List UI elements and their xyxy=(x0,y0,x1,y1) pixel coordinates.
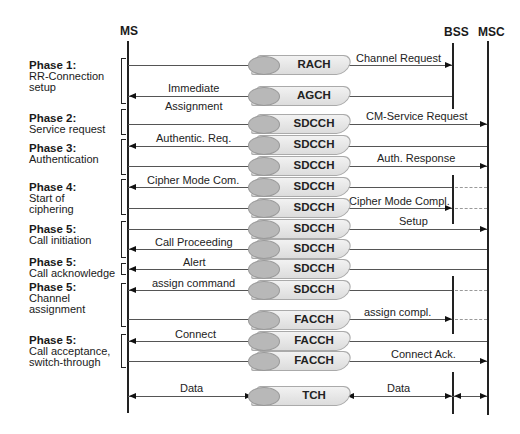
msg-line xyxy=(348,361,487,362)
msg-line xyxy=(128,208,252,209)
msg-line xyxy=(128,269,252,270)
msg-line xyxy=(128,341,252,342)
bss-lifeline-1 xyxy=(452,43,454,109)
msg-line xyxy=(348,146,487,147)
label-alert: Alert xyxy=(183,256,206,268)
label-assign-compl: assign compl. xyxy=(364,306,431,318)
msg-line xyxy=(348,290,452,291)
arrow-right-icon xyxy=(480,121,487,127)
bss-lifeline-2 xyxy=(452,175,454,224)
phase-4: Phase 4:Start ofciphering xyxy=(29,182,76,215)
bss-lifeline-3 xyxy=(452,276,454,334)
entity-ms: MS xyxy=(120,24,138,38)
msg-line xyxy=(348,249,487,250)
bracket-phase-4 xyxy=(121,179,126,215)
msg-line xyxy=(128,166,252,167)
arrow-left-icon xyxy=(454,393,461,399)
channel-sdcch: SDCCH xyxy=(248,198,352,218)
msg-line xyxy=(348,396,487,397)
msc-lifeline xyxy=(487,41,489,415)
arrow-left-icon xyxy=(129,393,136,399)
channel-sdcch: SDCCH xyxy=(248,239,352,259)
phase-5-channel-assignment: Phase 5:Channelassignment xyxy=(29,282,85,315)
label-data-left: Data xyxy=(180,382,203,394)
phase-2: Phase 2:Service request xyxy=(29,113,105,135)
arrow-left-icon xyxy=(129,246,136,252)
channel-tch: TCH xyxy=(248,386,352,406)
msg-line xyxy=(348,187,452,188)
channel-sdcch: SDCCH xyxy=(248,177,352,197)
msg-line xyxy=(348,124,487,125)
bracket-phase-5d xyxy=(121,334,126,368)
dashed-line xyxy=(455,187,487,188)
channel-sdcch: SDCCH xyxy=(248,156,352,176)
msg-line xyxy=(128,124,252,125)
msg-line xyxy=(348,166,487,167)
msg-line xyxy=(128,65,252,66)
label-data-right: Data xyxy=(387,382,410,394)
label-auth-response: Auth. Response xyxy=(377,152,455,164)
label-cipher-mode-compl: Cipher Mode Compl. xyxy=(349,195,450,207)
channel-agch: AGCH xyxy=(248,86,352,106)
msg-line xyxy=(128,396,252,397)
msg-line xyxy=(128,96,252,97)
channel-facch: FACCH xyxy=(248,331,352,351)
arrow-right-icon xyxy=(480,226,487,232)
label-cipher-mode-com: Cipher Mode Com. xyxy=(147,174,239,186)
label-authentic-req: Authentic. Req. xyxy=(156,132,231,144)
channel-sdcch: SDCCH xyxy=(248,219,352,239)
arrow-right-icon xyxy=(480,393,487,399)
entity-msc: MSC xyxy=(478,25,505,39)
msg-line xyxy=(348,229,487,230)
bracket-phase-1 xyxy=(121,58,126,104)
bracket-phase-5a xyxy=(121,221,126,258)
phase-5-call-acknowledge: Phase 5:Call acknowledge xyxy=(29,257,115,279)
arrow-left-icon xyxy=(129,287,136,293)
label-connect-ack: Connect Ack. xyxy=(391,348,456,360)
arrow-right-icon xyxy=(480,163,487,169)
channel-sdcch: SDCCH xyxy=(248,259,352,279)
phase-3: Phase 3:Authentication xyxy=(29,143,99,165)
phase-5-call-acceptance: Phase 5:Call acceptance,switch-through xyxy=(29,335,110,368)
bracket-phase-5b xyxy=(121,263,126,275)
label-immediate: Immediate xyxy=(168,82,219,94)
arrow-right-icon xyxy=(480,358,487,364)
msg-line xyxy=(348,65,452,66)
arrow-right-icon xyxy=(445,316,452,322)
label-connect: Connect xyxy=(175,328,216,340)
dashed-line xyxy=(455,208,487,209)
msg-line xyxy=(128,290,252,291)
channel-sdcch: SDCCH xyxy=(248,280,352,300)
bracket-phase-3 xyxy=(121,139,126,175)
arrow-right-icon xyxy=(445,393,452,399)
arrow-left-icon xyxy=(129,143,136,149)
channel-facch: FACCH xyxy=(248,351,352,371)
arrow-left-icon xyxy=(129,266,136,272)
label-assign-command: assign command xyxy=(152,277,235,289)
channel-sdcch: SDCCH xyxy=(248,114,352,134)
arrow-left-icon xyxy=(129,184,136,190)
bracket-phase-5c xyxy=(121,283,126,327)
msg-line xyxy=(348,208,452,209)
arrow-right-icon xyxy=(445,62,452,68)
channel-sdcch: SDCCH xyxy=(248,135,352,155)
msg-line xyxy=(128,187,252,188)
msg-line xyxy=(348,269,487,270)
phase-1: Phase 1:RR-Connectionsetup xyxy=(29,60,104,93)
msg-line xyxy=(128,319,252,320)
phase-5-call-initiation: Phase 5:Call initiation xyxy=(29,224,91,246)
label-assignment: Assignment xyxy=(165,100,222,112)
msg-line xyxy=(348,341,487,342)
label-cm-service-request: CM-Service Request xyxy=(366,110,467,122)
dashed-line xyxy=(455,290,487,291)
msg-line xyxy=(128,249,252,250)
msg-line xyxy=(348,96,452,97)
channel-facch: FACCH xyxy=(248,310,352,330)
arrow-left-icon xyxy=(129,338,136,344)
msg-line xyxy=(348,319,452,320)
msg-line xyxy=(128,146,252,147)
label-channel-request: Channel Request xyxy=(356,52,441,64)
bracket-phase-2 xyxy=(121,109,126,135)
dashed-line xyxy=(455,319,487,320)
entity-bss: BSS xyxy=(444,25,469,39)
